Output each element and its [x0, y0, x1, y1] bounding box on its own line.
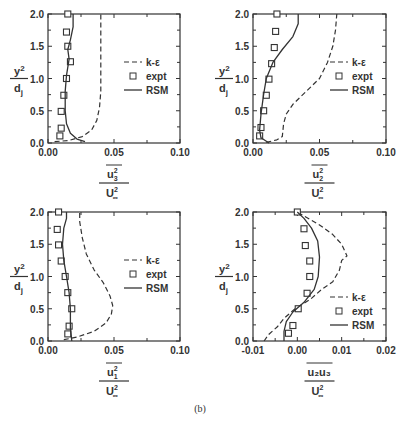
legend: k-εexptRSM — [330, 292, 374, 331]
x-axis-label: u22U2∞ — [305, 165, 335, 201]
y-tick-label: 1.0 — [30, 272, 44, 283]
svg-text:y2: y2 — [14, 64, 25, 77]
y-tick-label: 0.0 — [30, 336, 44, 347]
x-tick-label: 0.05 — [104, 147, 124, 158]
y-axis-label: y2dj — [215, 64, 233, 97]
svg-text:RSM: RSM — [352, 85, 374, 96]
plot-u2u3-covariance: -0.010.000.010.020.00.51.01.52.0y2dju₂u₃… — [215, 207, 396, 399]
svg-text:u₂u₃: u₂u₃ — [308, 366, 331, 378]
svg-text:y2: y2 — [219, 64, 230, 77]
svg-text:U2∞: U2∞ — [312, 384, 324, 399]
svg-text:dj: dj — [14, 280, 23, 295]
y-tick-label: 0.5 — [30, 304, 44, 315]
svg-text:expt: expt — [352, 71, 373, 82]
svg-text:dj: dj — [219, 82, 228, 97]
svg-text:U2∞: U2∞ — [312, 186, 324, 201]
svg-text:u22: u22 — [313, 167, 324, 182]
y-tick-label: 2.0 — [30, 207, 44, 218]
x-tick-label: 0.02 — [376, 345, 396, 356]
legend: k-εexptRSM — [124, 57, 168, 96]
svg-text:y2: y2 — [219, 262, 230, 275]
y-tick-label: 2.0 — [235, 9, 249, 20]
y-axis-label: y2dj — [215, 262, 233, 295]
svg-text:dj: dj — [14, 82, 23, 97]
plot-u3-variance: 0.000.050.100.00.51.01.52.0y2dju23U2∞k-ε… — [10, 9, 190, 201]
x-tick-label: 0.01 — [332, 345, 352, 356]
svg-text:k-ε: k-ε — [352, 292, 366, 303]
series-expt — [54, 209, 75, 337]
svg-text:RSM: RSM — [146, 283, 168, 294]
y-tick-label: 2.0 — [235, 207, 249, 218]
series-k-epsilon — [64, 212, 113, 340]
svg-text:y2: y2 — [14, 262, 25, 275]
y-tick-label: 1.5 — [30, 41, 44, 52]
y-tick-label: 1.5 — [235, 239, 249, 250]
svg-text:RSM: RSM — [352, 320, 374, 331]
y-tick-label: 0.5 — [235, 106, 249, 117]
x-axis-label: u23U2∞ — [99, 165, 129, 201]
svg-text:expt: expt — [146, 71, 167, 82]
y-tick-label: 0.0 — [30, 138, 44, 149]
svg-text:k-ε: k-ε — [146, 57, 160, 68]
figure-caption: (b) — [194, 403, 206, 415]
plot-u2-variance: 0.000.050.100.00.51.01.52.0y2dju22U2∞k-ε… — [215, 9, 396, 201]
y-tick-label: 0.0 — [235, 138, 249, 149]
x-tick-label: 0.10 — [170, 147, 190, 158]
y-tick-label: 1.0 — [235, 272, 249, 283]
y-tick-label: 1.0 — [30, 74, 44, 85]
y-tick-label: 1.5 — [30, 239, 44, 250]
figure-canvas: 0.000.050.100.00.51.01.52.0y2dju23U2∞k-ε… — [0, 0, 406, 421]
svg-text:u21: u21 — [107, 365, 118, 380]
legend: k-εexptRSM — [124, 255, 168, 294]
x-axis-label: u21U2∞ — [99, 363, 129, 399]
legend: k-εexptRSM — [330, 57, 374, 96]
x-tick-label: 0.10 — [170, 345, 190, 356]
y-axis-label: y2dj — [10, 262, 28, 295]
svg-text:RSM: RSM — [146, 85, 168, 96]
x-tick-label: 0.00 — [288, 345, 308, 356]
y-tick-label: 0.5 — [235, 304, 249, 315]
svg-text:u23: u23 — [107, 167, 118, 182]
svg-text:U2∞: U2∞ — [106, 384, 118, 399]
svg-text:k-ε: k-ε — [352, 57, 366, 68]
y-tick-label: 0.5 — [30, 106, 44, 117]
plot-u1-variance: 0.000.050.100.00.51.01.52.0y2dju21U2∞k-ε… — [10, 207, 190, 399]
svg-text:expt: expt — [146, 269, 167, 280]
svg-text:expt: expt — [352, 306, 373, 317]
y-tick-label: 0.0 — [235, 336, 249, 347]
series-k-epsilon — [55, 14, 101, 142]
svg-text:U2∞: U2∞ — [106, 186, 118, 201]
svg-text:dj: dj — [219, 280, 228, 295]
y-tick-label: 1.5 — [235, 41, 249, 52]
y-tick-label: 1.0 — [235, 74, 249, 85]
series-expt — [57, 11, 74, 139]
y-axis-label: y2dj — [10, 64, 28, 97]
x-tick-label: 0.05 — [310, 147, 330, 158]
x-tick-label: 0.10 — [376, 147, 396, 158]
svg-text:k-ε: k-ε — [146, 255, 160, 266]
x-tick-label: 0.05 — [104, 345, 124, 356]
x-axis-label: u₂u₃U2∞ — [305, 363, 335, 399]
y-tick-label: 2.0 — [30, 9, 44, 20]
